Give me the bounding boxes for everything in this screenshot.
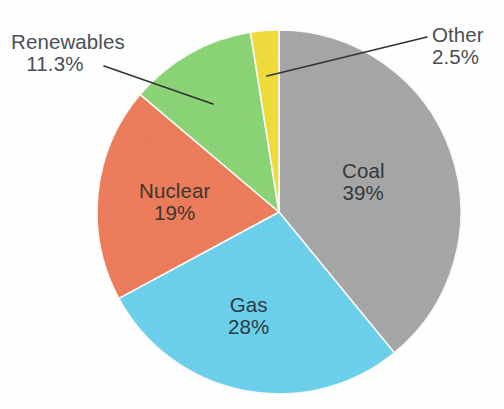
slice-label-renewables: Renewables 11.3% <box>11 31 125 75</box>
slice-label-nuclear-name: Nuclear <box>139 180 210 202</box>
slice-label-gas-value: 28% <box>228 316 269 338</box>
slice-label-nuclear: Nuclear 19% <box>139 180 210 224</box>
slice-label-gas-name: Gas <box>228 294 269 316</box>
slice-label-other-value: 2.5% <box>432 46 484 68</box>
slice-label-gas: Gas 28% <box>228 294 269 338</box>
slice-label-renewables-name: Renewables <box>11 31 125 53</box>
pie-chart: Coal 39% Gas 28% Nuclear 19% Renewables … <box>0 0 504 409</box>
slice-label-nuclear-value: 19% <box>139 202 210 224</box>
slice-label-coal: Coal 39% <box>342 160 385 204</box>
slice-label-coal-value: 39% <box>342 182 385 204</box>
slice-label-other-name: Other <box>432 24 484 46</box>
slice-label-other: Other 2.5% <box>432 24 484 68</box>
slice-label-coal-name: Coal <box>342 160 385 182</box>
slice-label-renewables-value: 11.3% <box>11 53 125 75</box>
